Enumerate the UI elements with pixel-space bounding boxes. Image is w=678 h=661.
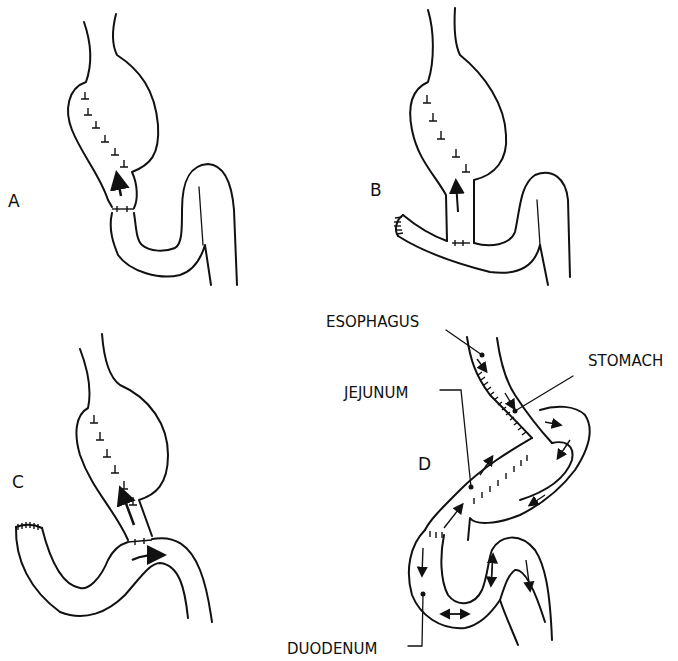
panel-label-c: C — [12, 472, 24, 492]
surgical-diagram: A B — [0, 0, 678, 661]
panel-label-b: B — [370, 180, 382, 200]
panel-label-a: A — [8, 191, 20, 211]
label-stomach: STOMACH — [588, 352, 663, 370]
panel-b: B — [370, 8, 570, 285]
label-duodenum: DUODENUM — [287, 640, 378, 658]
panel-a: A — [8, 14, 237, 285]
panel-label-d: D — [418, 454, 431, 474]
panel-c: C — [12, 334, 212, 622]
label-esophagus: ESOPHAGUS — [326, 313, 419, 331]
label-jejunum: JEJUNUM — [343, 384, 408, 402]
panel-d: ESOPHAGUS STOMACH JEJUNUM DUODENUM D — [287, 313, 663, 658]
